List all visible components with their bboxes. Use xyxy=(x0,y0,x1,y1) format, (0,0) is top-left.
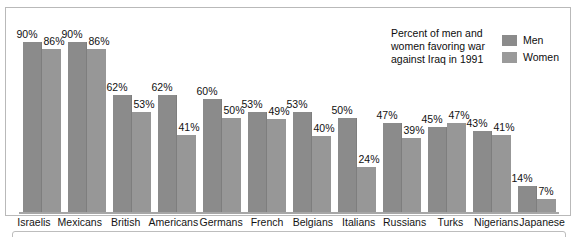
bar-value-label: 86% xyxy=(89,35,110,47)
bar-value-label: 41% xyxy=(494,121,515,133)
bar-value-label: 14% xyxy=(511,172,532,184)
bar-women-americans: 41% xyxy=(177,135,196,212)
x-axis-label-italians: Italians xyxy=(336,216,382,228)
bar-group: 90%86% xyxy=(19,12,64,212)
x-axis-label-mexicans: Mexicans xyxy=(57,216,103,228)
bar-value-label: 53% xyxy=(286,98,307,110)
bar-men-turks: 45% xyxy=(428,127,447,212)
x-axis-labels: IsraelisMexicansBritishAmericansGermansF… xyxy=(5,216,571,228)
bar-men-italians: 50% xyxy=(338,118,357,213)
bar-men-french: 53% xyxy=(248,112,267,212)
bar-women-italians: 24% xyxy=(357,167,376,212)
bar-women-british: 53% xyxy=(132,112,151,212)
chart-figure: 90%86%90%86%62%53%62%41%60%50%53%49%53%4… xyxy=(0,0,578,237)
bar-men-nigerians: 43% xyxy=(473,131,492,212)
x-axis-label-israelis: Israelis xyxy=(11,216,57,228)
bar-value-label: 7% xyxy=(539,185,554,197)
x-axis-label-japanese: Japanese xyxy=(519,216,565,228)
bar-men-americans: 62% xyxy=(158,95,177,212)
footer-panel xyxy=(12,231,566,237)
bar-men-japanese: 14% xyxy=(518,186,537,212)
bar-value-label: 41% xyxy=(179,121,200,133)
bar-women-israelis: 86% xyxy=(42,49,61,212)
bar-value-label: 24% xyxy=(359,153,380,165)
bar-women-belgians: 40% xyxy=(312,136,331,212)
bar-women-germans: 50% xyxy=(222,118,241,213)
legend-label: Men xyxy=(523,35,543,46)
bar-value-label: 53% xyxy=(134,98,155,110)
bar-value-label: 62% xyxy=(106,81,127,93)
bar-women-nigerians: 41% xyxy=(492,135,511,212)
bar-value-label: 47% xyxy=(376,109,397,121)
bar-value-label: 40% xyxy=(314,122,335,134)
bar-women-french: 49% xyxy=(267,119,286,212)
bar-group: 62%53% xyxy=(109,12,154,212)
legend-caption: Percent of men and women favoring war ag… xyxy=(391,27,493,66)
bar-value-label: 39% xyxy=(404,124,425,136)
x-axis-label-nigerians: Nigerians xyxy=(473,216,519,228)
legend-item-men: Men xyxy=(502,35,559,46)
bar-women-turks: 47% xyxy=(447,123,466,212)
x-axis-label-germans: Germans xyxy=(198,216,244,228)
legend-keys: MenWomen xyxy=(502,27,559,63)
bar-group: 53%49% xyxy=(244,12,289,212)
legend-item-women: Women xyxy=(502,52,559,63)
legend-swatch-women-icon xyxy=(502,52,517,63)
bar-women-russians: 39% xyxy=(402,138,421,212)
bar-value-label: 90% xyxy=(61,28,82,40)
bar-group: 62%41% xyxy=(154,12,199,212)
bar-men-germans: 60% xyxy=(203,99,222,212)
bar-group: 90%86% xyxy=(64,12,109,212)
bar-women-japanese: 7% xyxy=(537,199,556,212)
x-axis-label-belgians: Belgians xyxy=(290,216,336,228)
x-axis-label-british: British xyxy=(103,216,149,228)
bar-group: 60%50% xyxy=(199,12,244,212)
bar-men-belgians: 53% xyxy=(293,112,312,212)
bar-women-mexicans: 86% xyxy=(87,49,106,212)
bar-value-label: 50% xyxy=(331,104,352,116)
bar-value-label: 43% xyxy=(466,117,487,129)
x-axis-label-french: French xyxy=(244,216,290,228)
legend: Percent of men and women favoring war ag… xyxy=(391,27,559,75)
bar-group: 50%24% xyxy=(334,12,379,212)
x-axis-label-russians: Russians xyxy=(382,216,428,228)
bar-value-label: 53% xyxy=(241,98,262,110)
bar-value-label: 45% xyxy=(421,113,442,125)
bar-value-label: 62% xyxy=(151,81,172,93)
bar-group: 53%40% xyxy=(289,12,334,212)
bar-men-russians: 47% xyxy=(383,123,402,212)
bar-value-label: 90% xyxy=(16,28,37,40)
bar-value-label: 60% xyxy=(196,85,217,97)
bar-men-israelis: 90% xyxy=(23,42,42,212)
chart-frame: 90%86%90%86%62%53%62%41%60%50%53%49%53%4… xyxy=(5,7,571,216)
x-axis-label-americans: Americans xyxy=(149,216,199,228)
legend-label: Women xyxy=(523,52,559,63)
bar-men-mexicans: 90% xyxy=(68,42,87,212)
legend-swatch-men-icon xyxy=(502,35,517,46)
bar-men-british: 62% xyxy=(113,95,132,212)
x-axis-baseline xyxy=(19,212,559,214)
x-axis-label-turks: Turks xyxy=(427,216,473,228)
